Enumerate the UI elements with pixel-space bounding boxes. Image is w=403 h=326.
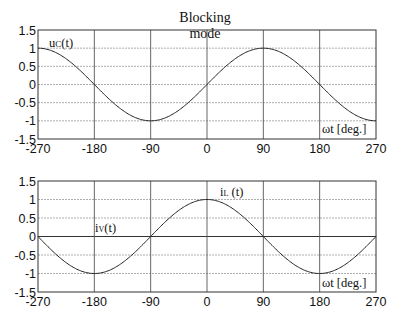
top-plot-x-ticks: -270-180-90090180270 xyxy=(25,142,386,156)
y-tick-label: 0 xyxy=(29,78,36,92)
x-tick-label: -180 xyxy=(82,295,107,309)
y-tick-label: 1 xyxy=(29,42,36,56)
x-tick-label: -270 xyxy=(25,295,50,309)
y-tick-label: 0 xyxy=(29,230,36,244)
x-tick-label: 0 xyxy=(204,142,211,156)
il-label: iL (t) xyxy=(220,185,243,199)
y-tick-label: 0.5 xyxy=(19,60,36,74)
x-tick-label: 90 xyxy=(256,295,270,309)
x-tick-label: -270 xyxy=(25,142,50,156)
top-plot: 1.510.50-0.5-1-1.5 -270-180-90090180270 … xyxy=(14,24,386,157)
x-tick-label: 0 xyxy=(204,295,211,309)
x-tick-label: -90 xyxy=(142,142,160,156)
uc-label: uC(t) xyxy=(49,36,73,50)
y-tick-label: -1 xyxy=(25,267,36,281)
chart-title-line2: mode xyxy=(189,26,220,41)
x-tick-label: 180 xyxy=(309,295,330,309)
iv-label: iV(t) xyxy=(95,221,116,235)
x-tick-label: 180 xyxy=(309,142,330,156)
y-tick-label: 1.5 xyxy=(19,24,36,38)
bottom-plot-x-ticks: -270-180-90090180270 xyxy=(25,295,386,309)
x-tick-label: 270 xyxy=(366,142,387,156)
x-tick-label: 90 xyxy=(256,142,270,156)
bottom-x-axis-label: ωt [deg.] xyxy=(322,276,366,290)
x-tick-label: 270 xyxy=(366,295,387,309)
y-tick-label: 1.5 xyxy=(19,175,36,189)
x-tick-label: -90 xyxy=(142,295,160,309)
bottom-plot: 1.510.50-0.5-1-1.5 -270-180-90090180270 … xyxy=(14,175,386,310)
x-tick-label: -180 xyxy=(82,142,107,156)
bottom-plot-y-ticks: 1.510.50-0.5-1-1.5 xyxy=(14,175,36,300)
top-plot-y-ticks: 1.510.50-0.5-1-1.5 xyxy=(14,24,36,147)
top-x-axis-label: ωt [deg.] xyxy=(322,122,366,136)
y-tick-label: -0.5 xyxy=(14,249,36,263)
y-tick-label: -1 xyxy=(25,114,36,128)
y-tick-label: -0.5 xyxy=(14,96,36,110)
chart-canvas: Blocking mode 1.510.50-0.5-1-1.5 -270-18… xyxy=(0,0,403,326)
chart-title-line1: Blocking xyxy=(179,10,230,25)
y-tick-label: 0.5 xyxy=(19,212,36,226)
y-tick-label: 1 xyxy=(29,193,36,207)
